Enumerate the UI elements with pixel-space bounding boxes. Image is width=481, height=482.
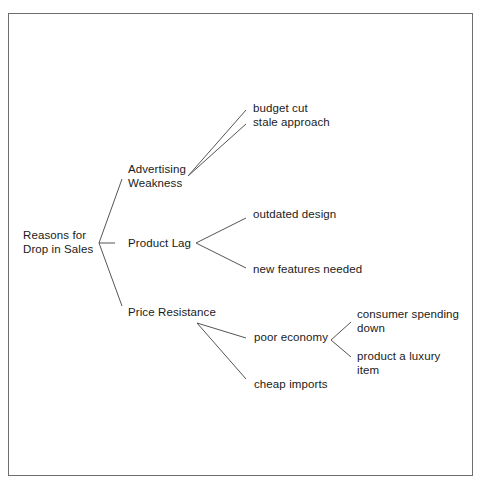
connector-economy-luxury bbox=[331, 340, 351, 357]
node-price-resistance: Price Resistance bbox=[128, 305, 216, 319]
node-label-line2: down bbox=[357, 321, 459, 335]
node-product-lag: Product Lag bbox=[128, 236, 191, 250]
node-label-line2: item bbox=[357, 363, 440, 377]
connector-product-features bbox=[196, 243, 246, 268]
connector-advertising-stale bbox=[188, 124, 246, 176]
connector-price-imports bbox=[197, 323, 246, 379]
node-new-features-needed: new features needed bbox=[253, 262, 362, 276]
node-product-luxury-item: product a luxury item bbox=[357, 349, 440, 377]
connector-root-price bbox=[99, 243, 122, 306]
connector-economy-spending bbox=[331, 322, 351, 340]
connector-product-outdated bbox=[196, 218, 246, 243]
root-node: Reasons for Drop in Sales bbox=[23, 228, 93, 256]
connector-root-advertising bbox=[99, 179, 122, 243]
node-poor-economy: poor economy bbox=[254, 330, 328, 344]
node-advertising-weakness: Advertising Weakness bbox=[128, 162, 186, 190]
connector-price-economy bbox=[197, 323, 246, 338]
node-stale-approach: stale approach bbox=[253, 115, 330, 129]
node-label-line2: Weakness bbox=[128, 176, 186, 190]
node-consumer-spending-down: consumer spending down bbox=[357, 307, 459, 335]
node-outdated-design: outdated design bbox=[253, 207, 336, 221]
node-label-line1: Advertising bbox=[128, 162, 186, 176]
root-label-line2: Drop in Sales bbox=[23, 242, 93, 256]
node-label-line1: consumer spending bbox=[357, 307, 459, 321]
node-budget-cut: budget cut bbox=[253, 101, 308, 115]
node-cheap-imports: cheap imports bbox=[254, 377, 328, 391]
connector-advertising-budget bbox=[188, 110, 246, 176]
node-label-line1: product a luxury bbox=[357, 349, 440, 363]
root-label-line1: Reasons for bbox=[23, 228, 93, 242]
